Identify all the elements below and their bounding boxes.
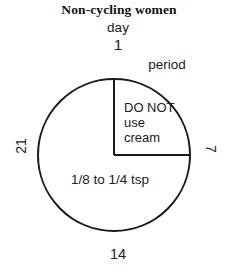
dose-label: 1/8 to 1/4 tsp bbox=[36, 172, 184, 187]
note-line-3: cream bbox=[124, 130, 175, 145]
note-line-2: use bbox=[124, 115, 175, 130]
cycle-circle-diagram bbox=[0, 0, 238, 273]
diagram-page: Non-cycling women day 1 period DO NOT us… bbox=[0, 0, 238, 273]
day-14-label: 14 bbox=[88, 246, 148, 262]
day-7-label: 7 bbox=[203, 138, 219, 160]
day-21-label: 21 bbox=[13, 132, 29, 160]
do-not-use-cream-note: DO NOT use cream bbox=[124, 100, 175, 145]
note-line-1: DO NOT bbox=[124, 100, 175, 115]
